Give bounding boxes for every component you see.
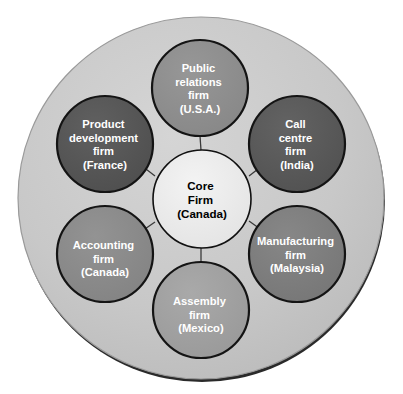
- node-product-development-firm[interactable]: Product development firm (France): [57, 96, 153, 192]
- diagram-canvas: Public relations firm (U.S.A.) Call cent…: [0, 0, 403, 394]
- node-accounting-firm[interactable]: Accounting firm (Canada): [57, 206, 153, 302]
- node-public-relations-firm[interactable]: Public relations firm (U.S.A.): [152, 40, 248, 136]
- node-core-firm[interactable]: Core Firm (Canada): [153, 150, 251, 248]
- node-circle-product-development-firm[interactable]: [57, 96, 153, 192]
- network-diagram: Public relations firm (U.S.A.) Call cent…: [0, 0, 403, 394]
- node-circle-core-firm[interactable]: [153, 150, 251, 248]
- node-call-centre-firm[interactable]: Call centre firm (India): [249, 96, 345, 192]
- node-circle-assembly-firm[interactable]: [153, 262, 249, 358]
- node-assembly-firm[interactable]: Assembly firm (Mexico): [153, 262, 249, 358]
- node-circle-public-relations-firm[interactable]: [152, 40, 248, 136]
- node-circle-accounting-firm[interactable]: [57, 206, 153, 302]
- node-circle-call-centre-firm[interactable]: [249, 96, 345, 192]
- node-manufacturing-firm[interactable]: Manufacturing firm (Malaysia): [249, 206, 345, 302]
- node-circle-manufacturing-firm[interactable]: [249, 206, 345, 302]
